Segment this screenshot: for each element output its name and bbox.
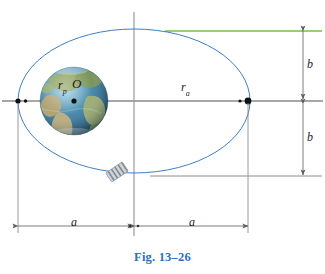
left-vertex-dot bbox=[15, 98, 20, 103]
label-semi-major-left: a bbox=[71, 216, 77, 228]
right-vertex-tick-dot bbox=[238, 99, 241, 102]
focus-point-dot bbox=[71, 98, 76, 103]
label-perigee-radius: rp bbox=[58, 79, 67, 94]
label-semi-major-right: a bbox=[189, 216, 195, 228]
dimension-tick-left bbox=[129, 225, 132, 228]
figure-canvas bbox=[0, 0, 325, 274]
satellite-icon bbox=[106, 162, 129, 182]
label-apogee-radius: ra bbox=[181, 81, 190, 96]
left-focus-tick-dot bbox=[24, 99, 27, 102]
label-center-point: O bbox=[72, 77, 81, 90]
label-semi-minor-bottom: b bbox=[307, 131, 313, 143]
label-semi-minor-top: b bbox=[307, 58, 313, 70]
dimension-tick-right bbox=[137, 225, 140, 228]
figure-caption: Fig. 13–26 bbox=[0, 250, 325, 265]
orbit-figure: rp O ra b b a a Fig. 13–26 bbox=[0, 0, 325, 274]
